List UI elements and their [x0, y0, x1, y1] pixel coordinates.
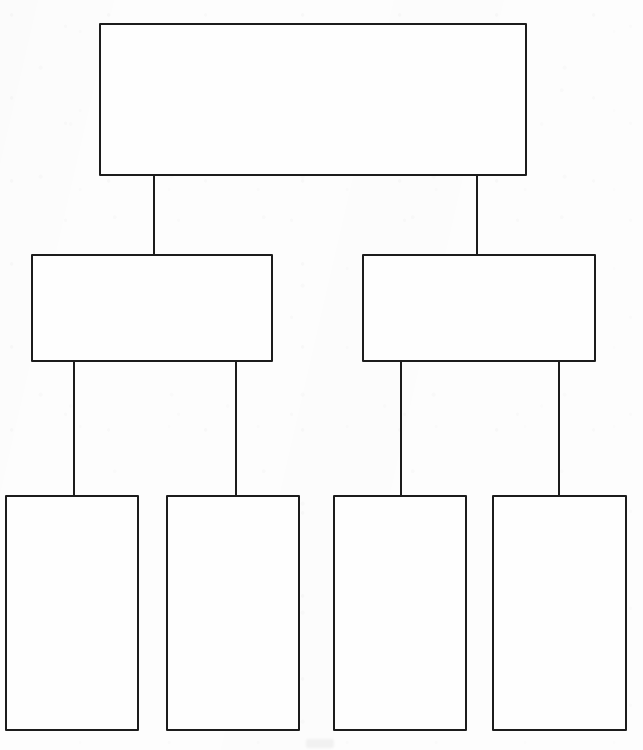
page-foot-scan-artifact	[306, 739, 334, 748]
diagram-canvas	[0, 0, 643, 750]
node-root[interactable]	[99, 23, 527, 176]
connector-root-to-branch-left	[153, 176, 155, 254]
connector-branch-right-to-leaf-3	[400, 362, 402, 495]
node-leaf-1[interactable]	[5, 495, 139, 731]
connector-branch-right-to-leaf-4	[558, 362, 560, 495]
node-leaf-4[interactable]	[492, 495, 627, 731]
node-branch-right[interactable]	[362, 254, 596, 362]
connector-branch-left-to-leaf-2	[235, 362, 237, 495]
connector-branch-left-to-leaf-1	[73, 362, 75, 495]
connector-root-to-branch-right	[476, 176, 478, 254]
node-branch-left[interactable]	[31, 254, 273, 362]
node-leaf-2[interactable]	[166, 495, 300, 731]
node-leaf-3[interactable]	[333, 495, 467, 731]
